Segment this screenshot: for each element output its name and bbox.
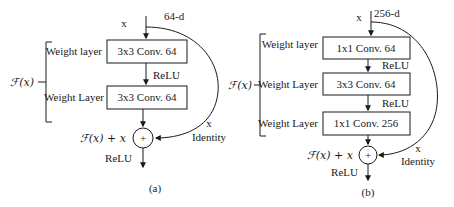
relu-label-1: ReLU	[382, 59, 409, 71]
dimension-label: 256-d	[374, 7, 400, 19]
relu-label-2: ReLU	[382, 97, 409, 109]
function-label: ℱ(x)	[10, 76, 34, 89]
residual-blocks-figure: x 64-d 3x3 Conv. 64 Weight layer ReLU 3x…	[0, 0, 454, 207]
skip-x-label: x	[415, 142, 421, 154]
identity-label: Identity	[401, 155, 436, 167]
sum-label: ℱ(x) + x	[307, 149, 354, 162]
function-label: ℱ(x)	[228, 79, 252, 92]
caption-b: (b)	[362, 186, 375, 199]
input-label: x	[121, 17, 127, 29]
identity-label: Identity	[192, 131, 227, 143]
weight-layer-label-2: Weight Layer	[258, 78, 318, 90]
input-label: x	[356, 11, 362, 23]
diagram-b: x 256-d 1x1 Conv. 64 Weight layer ReLU 3…	[228, 7, 437, 199]
weight-layer-label-3: Weight Layer	[258, 117, 318, 129]
sum-symbol: +	[365, 149, 371, 161]
weight-layer-label-2: Weight Layer	[44, 91, 104, 103]
caption-a: (a)	[149, 182, 162, 195]
conv-box-1-label: 3x3 Conv. 64	[118, 45, 177, 57]
conv-box-2-label: 3x3 Conv. 64	[118, 91, 177, 103]
relu-label-1: ReLU	[153, 69, 180, 81]
conv-box-3-label: 1x1 Conv. 256	[334, 117, 399, 129]
weight-layer-label-1: Weight layer	[46, 45, 103, 57]
output-relu-label: ReLU	[105, 152, 132, 164]
weight-layer-label-1: Weight layer	[262, 38, 319, 50]
skip-x-label: x	[206, 117, 212, 129]
conv-box-2-label: 3x3 Conv. 64	[337, 78, 396, 90]
diagram-a: x 64-d 3x3 Conv. 64 Weight layer ReLU 3x…	[10, 10, 226, 195]
sum-symbol: +	[140, 132, 146, 144]
sum-label: ℱ(x) + x	[80, 132, 127, 145]
output-relu-label: ReLU	[331, 166, 358, 178]
dimension-label: 64-d	[164, 10, 185, 22]
conv-box-1-label: 1x1 Conv. 64	[337, 42, 396, 54]
